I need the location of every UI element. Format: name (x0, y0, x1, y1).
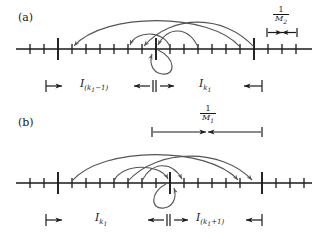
panel-b-scale-bracket (152, 127, 262, 137)
panel-b-interval-label-next: I(k1+1) (196, 212, 224, 228)
panel-a-arcs (74, 21, 254, 47)
figure-container: (a) (b) 1 M2 1 M1 I(k1−1) Ik1 Ik1 I(k1+1… (0, 0, 324, 239)
panel-a-scale-label: 1 M2 (273, 6, 289, 25)
panel-a-interval-label-current: Ik1 (199, 78, 211, 94)
panel-b-arc-2 (128, 156, 252, 181)
panel-b-tag: (b) (18, 117, 34, 128)
panel-a-scale-denominator: M2 (273, 15, 289, 25)
panel-b-self-loop (154, 184, 175, 208)
panel-a-scale-bracket (267, 28, 297, 37)
panel-a-interval-brackets (46, 80, 262, 92)
panel-b-interval-label-current: Ik1 (95, 212, 107, 228)
panel-a-group (16, 21, 312, 92)
panel-b-group (16, 127, 312, 226)
panel-b-arcs (72, 155, 252, 181)
panel-a-self-loop (151, 50, 172, 74)
panel-b-scale-denominator: M1 (200, 114, 216, 124)
panel-b-scale-label: 1 M1 (200, 105, 216, 124)
panel-a-tag: (a) (18, 12, 33, 23)
panel-a-interval-label-prev: I(k1−1) (80, 78, 108, 94)
panel-b-interval-brackets (46, 214, 262, 226)
figure-canvas (0, 0, 324, 239)
